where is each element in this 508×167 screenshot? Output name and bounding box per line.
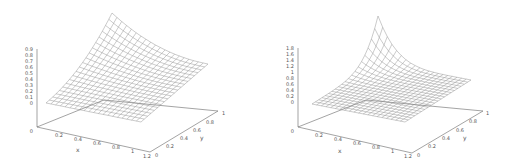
x-tick: 0.6: [353, 140, 361, 146]
y-tick: 0: [417, 152, 420, 158]
y-tick: 1: [486, 110, 489, 116]
x-tick: 1: [391, 148, 394, 154]
x-tick: 0.4: [334, 136, 342, 142]
back-y-edge: [37, 100, 104, 127]
axes-left: [37, 49, 218, 152]
origin-label: 0: [291, 128, 294, 134]
y-tick: 0.2: [428, 143, 436, 149]
mesh-lines: [46, 13, 208, 122]
y-tick: 0.8: [206, 119, 214, 125]
x-tick: 0.2: [315, 132, 323, 138]
x-axis-label: x: [338, 147, 342, 154]
x-tick: 0.8: [112, 144, 120, 150]
y-axis-label: y: [463, 134, 467, 142]
x-tick: 0.6: [93, 140, 101, 146]
x-tick: 0.8: [372, 144, 380, 150]
z-tick-labels: 0.9 0.8 0.7 0.6 0.5 0.4 0.3 0.2 0.1 0: [25, 46, 33, 106]
origin-label: 0: [30, 128, 33, 134]
x-tick: 1.2: [143, 153, 151, 159]
back-x-edge: [104, 100, 218, 111]
x-axis-label: x: [76, 146, 80, 153]
y-tick: 1: [222, 110, 225, 116]
y-tick-labels: 0 0.2 0.4 0.6 0.8 1: [417, 110, 489, 158]
surface-plot-right: 1.8 1.6 1.4 1.2 1 0.8 0.6 0.4 0.2 0 0 0.…: [254, 0, 508, 167]
z-tick: 0: [291, 99, 294, 105]
y-tick: 0.4: [442, 135, 450, 141]
y-axis-line: [150, 111, 218, 152]
x-tick-labels: 0.2 0.4 0.6 0.8 1 1.2: [55, 132, 151, 159]
z-tick-labels: 1.8 1.6 1.4 1.2 1 0.8 0.6 0.4 0.2 0: [286, 45, 294, 105]
z-tick: 0: [30, 100, 33, 106]
plot-canvas-left: 0.9 0.8 0.7 0.6 0.5 0.4 0.3 0.2 0.1 0 0 …: [0, 0, 254, 167]
y-tick: 0: [155, 152, 158, 158]
x-tick-labels: 0.2 0.4 0.6 0.8 1 1.2: [315, 132, 412, 159]
y-tick: 0.8: [469, 118, 477, 124]
surface-mesh-left: [46, 13, 208, 122]
plot-canvas-right: 1.8 1.6 1.4 1.2 1 0.8 0.6 0.4 0.2 0 0 0.…: [254, 0, 508, 167]
x-tick: 0.2: [55, 132, 63, 138]
surface-plot-left: 0.9 0.8 0.7 0.6 0.5 0.4 0.3 0.2 0.1 0 0 …: [0, 0, 254, 167]
y-axis-label: y: [200, 134, 204, 142]
surface-mesh-right: [312, 16, 471, 122]
y-tick: 0.4: [180, 135, 188, 141]
y-tick-labels: 0 0.2 0.4 0.6 0.8 1: [155, 110, 225, 158]
x-tick: 1: [131, 148, 134, 154]
x-tick: 0.4: [74, 136, 82, 142]
y-tick: 0.6: [193, 127, 201, 133]
y-tick: 0.2: [166, 143, 174, 149]
y-tick: 0.6: [456, 127, 464, 133]
mesh-lines: [312, 16, 471, 122]
x-tick: 1.2: [404, 153, 412, 159]
